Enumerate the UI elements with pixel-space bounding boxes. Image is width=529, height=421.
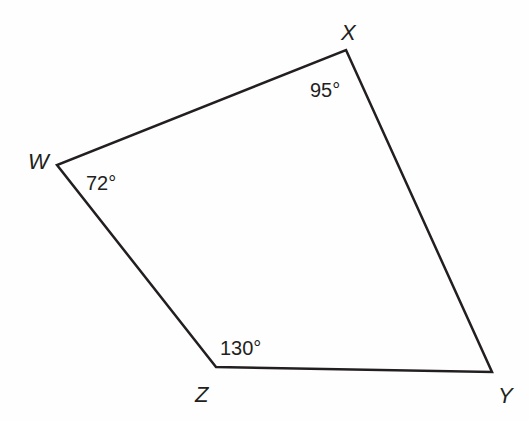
quadrilateral-diagram: X W Z Y 95° 72° 130° <box>0 0 529 421</box>
diagram-svg: X W Z Y 95° 72° 130° <box>0 0 529 421</box>
angle-label-x: 95° <box>310 79 340 101</box>
vertex-label-w: W <box>28 149 51 174</box>
vertex-label-y: Y <box>498 383 514 408</box>
angle-label-z: 130° <box>220 337 261 359</box>
vertex-label-x: X <box>340 20 357 45</box>
angle-label-w: 72° <box>86 172 116 194</box>
quadrilateral-wxyz <box>57 50 492 372</box>
vertex-label-z: Z <box>194 382 210 407</box>
